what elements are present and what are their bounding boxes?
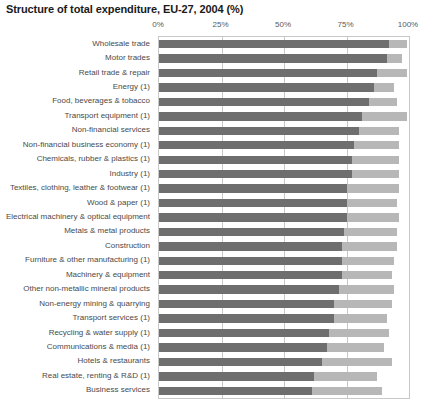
x-tick-label: 100% xyxy=(398,20,418,29)
stacked-bar xyxy=(159,156,399,164)
stacked-bar xyxy=(159,285,394,293)
stacked-bar xyxy=(159,98,397,106)
bar-segment-1 xyxy=(159,98,369,106)
bar-segment-2 xyxy=(342,242,397,250)
bar-segment-1 xyxy=(159,199,347,207)
bar-row xyxy=(159,268,409,282)
bar-rows xyxy=(159,37,409,398)
stacked-bar xyxy=(159,271,392,279)
bar-segment-2 xyxy=(389,40,407,48)
bar-segment-1 xyxy=(159,54,387,62)
bar-segment-2 xyxy=(369,98,397,106)
x-axis-tick-labels: 0%25%50%75%100% xyxy=(0,20,422,34)
bar-row xyxy=(159,297,409,311)
bar-segment-1 xyxy=(159,271,342,279)
stacked-bar xyxy=(159,372,377,380)
x-tick-label: 0% xyxy=(152,20,164,29)
bar-row xyxy=(159,254,409,268)
stacked-bar xyxy=(159,127,399,135)
bar-row xyxy=(159,124,409,138)
x-tick-label: 75% xyxy=(337,20,353,29)
bar-segment-1 xyxy=(159,156,352,164)
bar-segment-2 xyxy=(347,184,400,192)
bar-segment-1 xyxy=(159,40,389,48)
bar-segment-1 xyxy=(159,213,347,221)
y-axis-category-labels: Wholesale tradeMotor tradesRetail trade … xyxy=(0,36,154,397)
y-axis-label: Motor trades xyxy=(0,53,154,62)
stacked-bar xyxy=(159,343,384,351)
stacked-bar xyxy=(159,300,392,308)
y-axis-label: Chemicals, rubber & plastics (1) xyxy=(0,154,154,163)
bar-row xyxy=(159,239,409,253)
stacked-bar xyxy=(159,170,399,178)
y-axis-label: Machinery & equipment xyxy=(0,270,154,279)
y-axis-label: Wood & paper (1) xyxy=(0,198,154,207)
bar-segment-2 xyxy=(327,343,385,351)
bar-segment-1 xyxy=(159,300,334,308)
bar-segment-1 xyxy=(159,329,329,337)
stacked-bar xyxy=(159,184,399,192)
bar-row xyxy=(159,311,409,325)
stacked-bar xyxy=(159,387,382,395)
bar-segment-1 xyxy=(159,387,312,395)
bar-segment-2 xyxy=(377,69,407,77)
bar-segment-1 xyxy=(159,358,322,366)
stacked-bar xyxy=(159,242,397,250)
bar-row xyxy=(159,369,409,383)
x-tick-label: 50% xyxy=(275,20,291,29)
bar-segment-1 xyxy=(159,372,314,380)
y-axis-label: Food, beverages & tobacco xyxy=(0,96,154,105)
chart-plot-wrapper: 0%25%50%75%100% Wholesale tradeMotor tra… xyxy=(0,20,422,404)
y-axis-label: Non-financial services xyxy=(0,125,154,134)
bar-segment-2 xyxy=(322,358,392,366)
stacked-bar xyxy=(159,54,402,62)
stacked-bar xyxy=(159,69,407,77)
bar-row xyxy=(159,153,409,167)
stacked-bar xyxy=(159,112,407,120)
bar-segment-2 xyxy=(314,372,377,380)
bar-segment-2 xyxy=(344,228,397,236)
stacked-bar xyxy=(159,213,399,221)
bar-segment-2 xyxy=(339,285,394,293)
bar-row xyxy=(159,340,409,354)
stacked-bar xyxy=(159,329,389,337)
bar-row xyxy=(159,181,409,195)
bar-row xyxy=(159,210,409,224)
stacked-bar xyxy=(159,314,387,322)
y-axis-label: Other non-metallic mineral products xyxy=(0,284,154,293)
bar-segment-2 xyxy=(334,314,387,322)
bar-row xyxy=(159,80,409,94)
bar-segment-1 xyxy=(159,228,344,236)
bar-segment-2 xyxy=(387,54,402,62)
y-axis-label: Non-financial business economy (1) xyxy=(0,140,154,149)
y-axis-label: Electrical machinery & optical equipment xyxy=(0,212,154,221)
bar-segment-2 xyxy=(352,170,400,178)
x-tick-label: 25% xyxy=(212,20,228,29)
bar-segment-2 xyxy=(342,257,395,265)
bar-segment-2 xyxy=(312,387,382,395)
bar-row xyxy=(159,384,409,398)
stacked-bar xyxy=(159,358,392,366)
bar-segment-1 xyxy=(159,69,377,77)
y-axis-label: Transport services (1) xyxy=(0,313,154,322)
y-axis-label: Non-energy mining & quarrying xyxy=(0,299,154,308)
bar-row xyxy=(159,167,409,181)
bar-segment-1 xyxy=(159,170,352,178)
y-axis-label: Energy (1) xyxy=(0,82,154,91)
y-axis-label: Retail trade & repair xyxy=(0,68,154,77)
bar-row xyxy=(159,51,409,65)
bar-segment-1 xyxy=(159,343,327,351)
bar-row xyxy=(159,37,409,51)
stacked-bar xyxy=(159,40,407,48)
stacked-bar xyxy=(159,199,397,207)
y-axis-label: Furniture & other manufacturing (1) xyxy=(0,255,154,264)
page-title: Structure of total expenditure, EU-27, 2… xyxy=(6,3,243,15)
bar-segment-2 xyxy=(334,300,392,308)
bar-row xyxy=(159,355,409,369)
bar-segment-2 xyxy=(329,329,389,337)
bar-row xyxy=(159,225,409,239)
bar-row xyxy=(159,138,409,152)
y-axis-label: Communications & media (1) xyxy=(0,342,154,351)
y-axis-label: Industry (1) xyxy=(0,169,154,178)
bar-segment-2 xyxy=(352,156,400,164)
